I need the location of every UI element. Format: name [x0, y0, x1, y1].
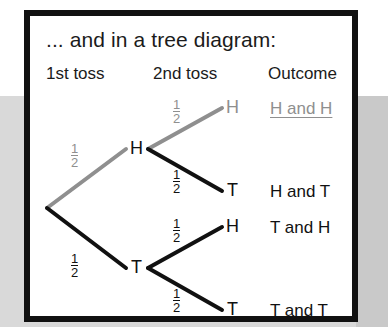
branch-h-to-h [148, 108, 222, 149]
outcome-h-and-t: H and T [270, 182, 330, 202]
outcome-t-and-h: T and H [270, 218, 330, 238]
fraction-numerator: 1 [173, 168, 180, 181]
node-leaf-th: H [226, 217, 239, 235]
branch-t-to-t [148, 268, 222, 310]
fraction-numerator: 1 [173, 287, 180, 300]
fraction-numerator: 1 [173, 217, 180, 230]
node-leaf-tt: T [227, 300, 238, 318]
fraction-denominator: 2 [173, 230, 180, 244]
probability-first-h: 1 2 [71, 142, 78, 170]
branch-t-to-h [148, 227, 222, 268]
probability-second-tt: 1 2 [173, 287, 180, 315]
outcome-h-and-h: H and H [270, 99, 332, 119]
probability-first-t: 1 2 [71, 252, 78, 280]
fraction-numerator: 1 [173, 98, 180, 111]
tree-branches [30, 16, 364, 327]
fraction-denominator: 2 [173, 300, 180, 314]
outcome-t-and-t: T and T [270, 301, 328, 321]
figure-frame: ... and in a tree diagram: 1st toss 2nd … [24, 10, 358, 322]
branch-start-to-h [47, 149, 126, 208]
tree-diagram-screenshot: ... and in a tree diagram: 1st toss 2nd … [0, 0, 388, 327]
probability-second-th: 1 2 [173, 217, 180, 245]
fraction-denominator: 2 [173, 111, 180, 125]
branch-start-to-t [47, 208, 126, 268]
fraction-numerator: 1 [71, 252, 78, 265]
node-leaf-hh: H [226, 98, 239, 116]
fraction-denominator: 2 [173, 181, 180, 195]
fraction-numerator: 1 [71, 142, 78, 155]
probability-second-hh: 1 2 [173, 98, 180, 126]
fraction-denominator: 2 [71, 265, 78, 279]
node-branch-t: T [131, 258, 142, 276]
fraction-denominator: 2 [71, 155, 78, 169]
node-leaf-ht: T [227, 181, 238, 199]
probability-second-ht: 1 2 [173, 168, 180, 196]
figure-content: ... and in a tree diagram: 1st toss 2nd … [30, 16, 352, 316]
node-branch-h: H [130, 139, 143, 157]
branch-h-to-t [148, 149, 222, 191]
